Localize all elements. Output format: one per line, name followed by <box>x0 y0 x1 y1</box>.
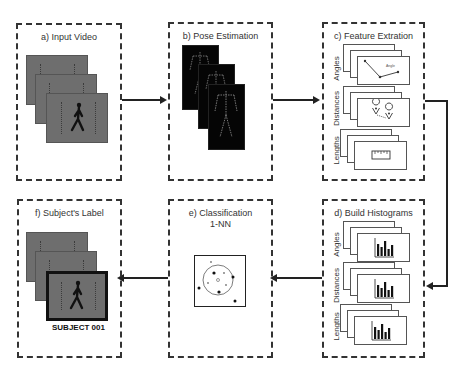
bar-chart-icon <box>355 317 406 344</box>
svg-text:Angle: Angle <box>386 64 395 68</box>
location-pins-icon <box>358 99 409 126</box>
histogram-card <box>357 233 410 262</box>
angle-card: Angle <box>357 56 410 85</box>
length-card <box>354 141 407 170</box>
panel-title: f) Subject's Label <box>19 208 120 218</box>
knn-plot <box>194 255 246 307</box>
highlighted-video-frame <box>46 271 108 321</box>
panel-subtitle: 1-NN <box>170 219 271 229</box>
panel-title: b) Pose Estimation <box>170 31 271 41</box>
bar-chart-icon <box>358 234 409 261</box>
skeleton-frame <box>208 84 245 150</box>
skeleton-icon <box>209 85 244 149</box>
ruler-icon <box>355 142 406 169</box>
panel-title: c) Feature Extration <box>324 31 423 41</box>
distance-card <box>357 98 410 127</box>
subject-label: SUBJECT 001 <box>52 323 105 332</box>
panel-title: e) Classification <box>170 208 271 218</box>
histogram-card <box>357 274 410 303</box>
video-frame <box>46 93 108 143</box>
nearest-neighbor-icon <box>195 256 244 305</box>
panel-title: d) Build Histograms <box>324 208 423 218</box>
panel-title: a) Input Video <box>18 32 120 42</box>
walking-person-icon <box>67 102 87 134</box>
walking-person-icon <box>66 280 86 312</box>
histogram-card <box>354 316 407 345</box>
bar-chart-icon <box>358 275 409 302</box>
angle-icon: Angle <box>358 57 409 84</box>
